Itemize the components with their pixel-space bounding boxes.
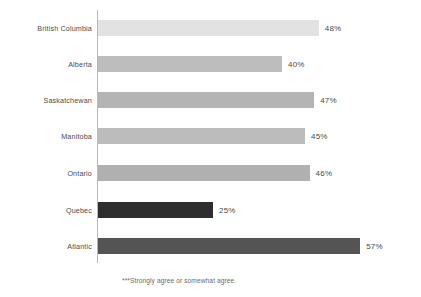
bar-track: 57% xyxy=(98,238,421,254)
bar-value-label: 48% xyxy=(325,23,342,32)
bar-category-label: Ontario xyxy=(0,168,92,177)
bar-track: 48% xyxy=(98,20,421,36)
bar-category-label: Quebec xyxy=(0,205,92,214)
bar-category-label: British Columbia xyxy=(0,23,92,32)
bar-category-label: Atlantic xyxy=(0,241,92,250)
bar-track: 40% xyxy=(98,56,421,72)
bar-value-label: 57% xyxy=(366,241,383,250)
bar-value-label: 45% xyxy=(311,131,328,140)
bar-row: Ontario 46% xyxy=(0,155,421,190)
chart-footnote: ***Strongly agree or somewhat agree. xyxy=(122,277,236,284)
bar-row: Saskatchewan 47% xyxy=(0,82,421,117)
bar-fill xyxy=(98,165,310,181)
bar-row: Manitoba 45% xyxy=(0,118,421,153)
bar-fill xyxy=(98,128,305,144)
bar-row: Quebec 25% xyxy=(0,192,421,227)
bar-row: British Columbia 48% xyxy=(0,10,421,45)
bar-value-label: 25% xyxy=(219,205,236,214)
plot-area: British Columbia 48% Alberta 40% Saskatc… xyxy=(0,0,421,268)
bar-fill xyxy=(98,202,213,218)
bar-category-label: Saskatchewan xyxy=(0,95,92,104)
bar-fill xyxy=(98,92,314,108)
bar-track: 46% xyxy=(98,165,421,181)
bar-row: Atlantic 57% xyxy=(0,228,421,263)
bar-fill xyxy=(98,56,282,72)
bar-value-label: 47% xyxy=(320,95,337,104)
bar-chart-figure: British Columbia 48% Alberta 40% Saskatc… xyxy=(0,0,421,297)
bar-track: 47% xyxy=(98,92,421,108)
bar-fill xyxy=(98,238,360,254)
bar-track: 25% xyxy=(98,202,421,218)
bar-fill xyxy=(98,20,319,36)
bar-category-label: Manitoba xyxy=(0,131,92,140)
bar-category-label: Alberta xyxy=(0,59,92,68)
bar-track: 45% xyxy=(98,128,421,144)
bar-value-label: 40% xyxy=(288,59,305,68)
bar-row: Alberta 40% xyxy=(0,46,421,81)
bar-value-label: 46% xyxy=(316,168,333,177)
